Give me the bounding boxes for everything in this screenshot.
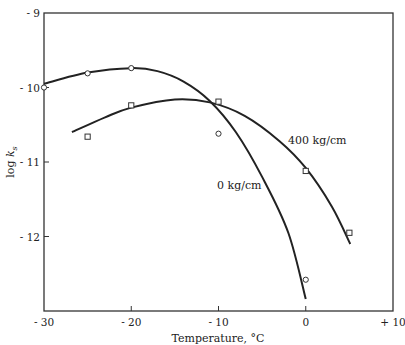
series-label-0: 0 kg/cm xyxy=(217,179,262,192)
square-marker xyxy=(347,230,352,235)
y-axis-label-sub: s xyxy=(10,146,19,150)
square-marker xyxy=(216,99,221,104)
square-marker xyxy=(129,103,134,108)
data-markers xyxy=(41,66,352,283)
square-marker xyxy=(303,168,308,173)
fit-curves xyxy=(44,68,350,299)
circle-marker xyxy=(129,66,134,71)
fit-curve-0 xyxy=(44,68,306,299)
circle-marker xyxy=(216,131,221,136)
circle-marker xyxy=(85,71,90,76)
plot-frame xyxy=(44,13,393,311)
circle-marker xyxy=(303,277,308,282)
axis-tick-labels: - 30- 20- 100+ 10- 9- 10- 11- 12 xyxy=(20,7,405,328)
y-axis-label: log ks xyxy=(4,146,19,177)
y-tick-label: - 9 xyxy=(26,7,40,19)
y-tick-label: - 10 xyxy=(20,82,40,94)
circle-marker xyxy=(41,85,46,90)
x-tick-label: 0 xyxy=(302,316,309,328)
series-label-400: 400 kg/cm xyxy=(288,134,347,147)
x-axis-label: Temperature, °C xyxy=(172,332,265,345)
chart: - 30- 20- 100+ 10- 9- 10- 11- 12 400 kg/… xyxy=(0,0,405,345)
x-tick-label: - 30 xyxy=(34,316,54,328)
y-axis-label-prefix: log xyxy=(4,157,17,178)
x-tick-label: - 10 xyxy=(208,316,228,328)
square-marker xyxy=(85,134,90,139)
y-tick-label: - 11 xyxy=(20,156,40,168)
axis-ticks xyxy=(44,88,306,312)
y-tick-label: - 12 xyxy=(20,231,40,243)
x-tick-label: - 20 xyxy=(121,316,141,328)
x-tick-label: + 10 xyxy=(380,316,405,328)
